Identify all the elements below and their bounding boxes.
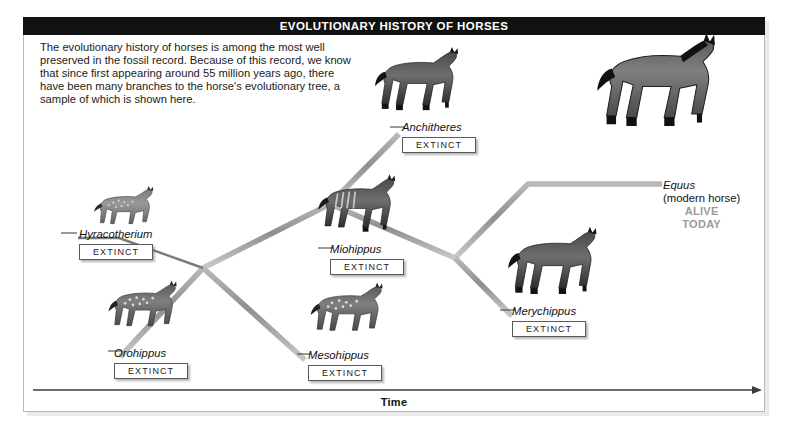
taxon-label-miohippus[interactable]: Miohippus EXTINCT (330, 243, 404, 275)
horse-equus (597, 33, 715, 126)
status-badge: EXTINCT (512, 321, 586, 337)
taxon-label-mesohippus[interactable]: Mesohippus EXTINCT (308, 349, 382, 381)
status-badge: EXTINCT (114, 363, 188, 379)
horse-merychippus (508, 227, 596, 294)
taxon-label-equus[interactable]: Equus (modern horse) ALIVE TODAY (663, 179, 740, 230)
taxon-name: Orohippus (114, 347, 188, 360)
time-axis-label: Time (0, 396, 788, 408)
taxon-subtitle: (modern horse) (663, 192, 740, 205)
branch-to-merychippus (455, 258, 512, 316)
horse-miohippus (318, 174, 395, 231)
branch-to-mesohippus (203, 268, 305, 360)
diagram-canvas: EVOLUTIONARY HISTORY OF HORSES The evolu… (0, 0, 788, 427)
status-badge: EXTINCT (308, 365, 382, 381)
taxon-name: Merychippus (512, 305, 586, 318)
branch-to-miohippus (203, 204, 330, 268)
taxon-name: Mesohippus (308, 349, 382, 362)
taxon-label-anchitheres[interactable]: Anchitheres EXTINCT (402, 121, 476, 153)
status-badge-alive: ALIVE TODAY (663, 205, 740, 230)
status-badge: EXTINCT (402, 137, 476, 153)
horse-mesohippus (311, 282, 383, 330)
alive-line-2: TODAY (663, 218, 740, 231)
taxon-label-hyracotherium[interactable]: Hyracotherium EXTINCT (79, 228, 153, 260)
taxon-name: Hyracotherium (79, 228, 153, 241)
horse-anchitheres (375, 47, 458, 110)
horse-orohippus (109, 280, 177, 325)
alive-line-1: ALIVE (663, 205, 740, 218)
time-axis (33, 386, 762, 394)
taxon-label-merychippus[interactable]: Merychippus EXTINCT (512, 305, 586, 337)
taxon-name: Miohippus (330, 243, 404, 256)
taxon-name: Anchitheres (402, 121, 476, 134)
taxon-name: Equus (663, 179, 740, 192)
status-badge: EXTINCT (330, 259, 404, 275)
taxon-label-orohippus[interactable]: Orohippus EXTINCT (114, 347, 188, 379)
status-badge: EXTINCT (79, 244, 153, 260)
horse-hyracotherium (94, 186, 153, 224)
